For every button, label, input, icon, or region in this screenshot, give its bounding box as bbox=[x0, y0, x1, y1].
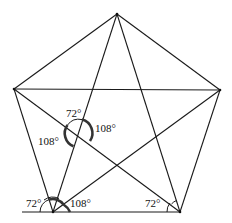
vertex-left bbox=[13, 88, 16, 91]
label-bottomleft-72: 72° bbox=[26, 197, 41, 209]
label-bottomright-72: 72° bbox=[145, 197, 160, 209]
diagonal-left-bottomright bbox=[14, 89, 180, 212]
label-center-72: 72° bbox=[66, 107, 81, 119]
edge-top-right bbox=[117, 14, 220, 90]
angle-arc-bottomright-72 bbox=[167, 203, 170, 212]
vertex-bottom-left bbox=[52, 211, 55, 214]
label-center-108-right: 108° bbox=[95, 122, 116, 134]
angle-arc-bottomright-inner bbox=[172, 201, 177, 205]
diagonal-top-bottomleft bbox=[53, 14, 117, 212]
angle-arc-center-108-right bbox=[82, 120, 92, 141]
vertex-top bbox=[116, 13, 119, 16]
edge-right-bottomright bbox=[180, 90, 220, 212]
diagonal-left-right bbox=[14, 89, 220, 90]
vertex-bottom-right bbox=[179, 211, 182, 214]
label-bottomleft-108: 108° bbox=[70, 197, 91, 209]
vertex-right bbox=[219, 89, 222, 92]
edge-left-bottomleft bbox=[14, 89, 53, 212]
label-center-108-left: 108° bbox=[38, 135, 59, 147]
pentagram-diagram: 72° 108° 108° 72° 108° 72° bbox=[0, 0, 232, 223]
diagonal-top-bottomright bbox=[117, 14, 180, 212]
angle-arc-center-72 bbox=[68, 119, 83, 125]
edge-top-left bbox=[14, 14, 117, 89]
angle-arc-center-108-left bbox=[65, 125, 74, 146]
